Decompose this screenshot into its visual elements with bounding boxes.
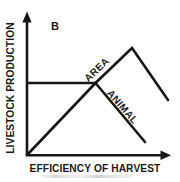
x-axis-title: EFFICIENCY OF HARVEST [30, 163, 161, 174]
rising-segment [28, 83, 96, 154]
animal-curve-label: ANIMAL [105, 88, 140, 126]
figure-panel-b: B AREA ANIMAL LIVESTOCK PRODUCTION EFFIC… [0, 0, 180, 182]
y-axis-title: LIVESTOCK PRODUCTION [5, 22, 16, 153]
chart-canvas: B AREA ANIMAL LIVESTOCK PRODUCTION EFFIC… [0, 0, 180, 182]
x-axis [26, 150, 171, 160]
panel-label-b: B [51, 20, 59, 32]
area-curve-label: AREA [82, 55, 111, 84]
arrow-up-icon [22, 12, 31, 23]
animal-curve [96, 83, 146, 142]
animal-curve-series [96, 83, 146, 142]
shared-rising-limb [28, 83, 96, 154]
arrow-right-icon [161, 150, 172, 160]
